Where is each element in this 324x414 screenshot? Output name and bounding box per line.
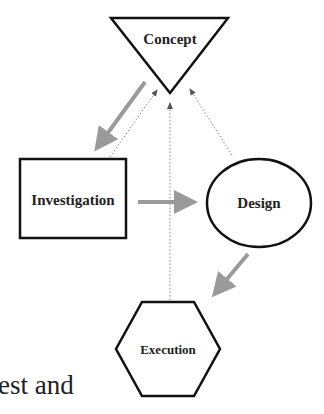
node-label-execution: Execution [140,342,196,357]
inverted-triangle-shape [111,18,228,93]
feedback-arrow-design-to-concept [190,89,232,155]
node-label-design: Design [237,195,281,211]
node-execution: Execution [116,302,220,396]
node-label-investigation: Investigation [31,192,115,208]
node-concept: Concept [111,18,228,93]
flow-arrow-concept-to-investigation [99,82,145,145]
body-text-fragment: est and [0,370,74,401]
process-diagram: Concept Investigation Design Execution [0,0,324,414]
node-investigation: Investigation [20,159,126,238]
node-label-concept: Concept [143,31,196,47]
node-design: Design [207,159,311,247]
flow-arrow-design-to-execution [217,254,248,291]
